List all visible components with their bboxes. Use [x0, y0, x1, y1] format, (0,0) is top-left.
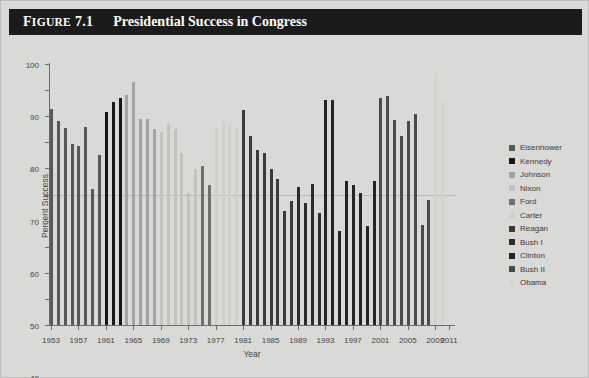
- x-tick-mark: 1969: [161, 326, 162, 330]
- bar: [276, 179, 279, 325]
- bar: [441, 101, 444, 325]
- bar: [434, 73, 437, 325]
- x-tick-label: 2001: [371, 336, 389, 345]
- x-tick-mark: 1989: [298, 326, 299, 330]
- bar: [57, 121, 60, 325]
- y-tick-label: 100: [26, 61, 39, 70]
- x-tick-mark: 1965: [133, 326, 134, 330]
- legend-swatch-icon: [509, 145, 515, 151]
- y-tick-label: 90: [30, 113, 39, 122]
- bar: [263, 153, 266, 325]
- figure-container: FIGURE 7.1 Presidential Success in Congr…: [0, 0, 589, 378]
- legend-item-nixon[interactable]: Nixon: [509, 182, 587, 196]
- bar: [201, 166, 204, 325]
- y-tick-mark: 80: [45, 116, 49, 117]
- bar: [98, 155, 101, 325]
- figure-header-bar: FIGURE 7.1 Presidential Success in Congr…: [9, 9, 582, 35]
- x-tick-label: 1965: [124, 336, 142, 345]
- bar: [77, 146, 80, 325]
- x-tick-label: 1961: [97, 336, 115, 345]
- legend-swatch-icon: [509, 199, 515, 205]
- x-tick-label: 1985: [262, 336, 280, 345]
- bar: [283, 211, 286, 325]
- bar: [242, 110, 245, 325]
- x-tick-mark: 1961: [106, 326, 107, 330]
- y-tick-mark: 0: [45, 325, 49, 326]
- x-tick-label: 1977: [207, 336, 225, 345]
- x-axis-line: [49, 325, 455, 326]
- y-tick-mark: 100: [45, 64, 49, 65]
- legend-item-carter[interactable]: Carter: [509, 209, 587, 223]
- legend-label: Bush II: [520, 265, 545, 274]
- x-tick-mark: 1957: [78, 326, 79, 330]
- legend-swatch-icon: [509, 158, 515, 164]
- legend-label: Johnson: [520, 170, 550, 179]
- bar: [167, 124, 170, 325]
- legend-label: Eisenhower: [520, 143, 562, 152]
- legend-label: Obama: [520, 278, 546, 287]
- bar: [105, 112, 108, 325]
- x-tick-label: 1981: [234, 336, 252, 345]
- legend-label: Clinton: [520, 251, 545, 260]
- bar: [379, 98, 382, 325]
- bar: [345, 181, 348, 325]
- y-tick-mark: 40: [45, 221, 49, 222]
- legend-swatch-icon: [509, 172, 515, 178]
- y-tick-label: 50: [30, 322, 39, 331]
- bar: [270, 169, 273, 325]
- bar: [256, 150, 259, 325]
- bar: [331, 100, 334, 326]
- bar: [119, 98, 122, 325]
- y-tick-mark: 50: [45, 195, 49, 196]
- bar: [297, 187, 300, 325]
- chart-plot-area: 0102030405060708090100 19531957196119651…: [49, 63, 455, 326]
- bar: [324, 100, 327, 326]
- bar: [215, 128, 218, 325]
- y-tick-label: 70: [30, 217, 39, 226]
- figure-title: Presidential Success in Congress: [113, 14, 307, 30]
- bar: [194, 169, 197, 325]
- y-tick-label: 40: [30, 374, 39, 378]
- bar: [160, 132, 163, 325]
- y-tick-label: 60: [30, 269, 39, 278]
- y-tick-mark: 90: [45, 90, 49, 91]
- bar: [50, 109, 53, 325]
- x-tick-label: 1993: [317, 336, 335, 345]
- x-tick-label: 1989: [289, 336, 307, 345]
- legend-swatch-icon: [509, 239, 515, 245]
- x-tick-mark: 2011: [449, 326, 450, 330]
- x-tick-label: 2011: [440, 336, 457, 345]
- bar: [414, 114, 417, 325]
- y-tick-mark: 60: [45, 168, 49, 169]
- bar: [139, 119, 142, 325]
- x-tick-mark: 1993: [325, 326, 326, 330]
- x-tick-mark: 1997: [353, 326, 354, 330]
- legend-item-eisenhower[interactable]: Eisenhower: [509, 141, 587, 155]
- legend-item-obama[interactable]: Obama: [509, 276, 587, 290]
- x-tick-mark: 2005: [408, 326, 409, 330]
- bar: [352, 185, 355, 325]
- bar: [71, 144, 74, 325]
- legend-item-johnson[interactable]: Johnson: [509, 168, 587, 182]
- chart-legend: EisenhowerKennedyJohnsonNixonFordCarterR…: [509, 141, 587, 290]
- x-tick-label: 1973: [179, 336, 197, 345]
- bar: [366, 226, 369, 325]
- x-axis-title: Year: [49, 349, 455, 359]
- legend-swatch-icon: [509, 280, 515, 286]
- legend-item-kennedy[interactable]: Kennedy: [509, 155, 587, 169]
- legend-item-clinton[interactable]: Clinton: [509, 249, 587, 263]
- legend-item-bush-ii[interactable]: Bush II: [509, 263, 587, 277]
- y-tick-mark: 30: [45, 247, 49, 248]
- x-tick-mark: 2009: [435, 326, 436, 330]
- bar: [304, 203, 307, 325]
- x-tick-mark: 1981: [243, 326, 244, 330]
- legend-item-bush-i[interactable]: Bush I: [509, 236, 587, 250]
- bar: [421, 225, 424, 325]
- bar: [407, 121, 410, 325]
- x-tick-mark: 1985: [271, 326, 272, 330]
- x-tick-label: 2005: [399, 336, 417, 345]
- y-tick-mark: 10: [45, 299, 49, 300]
- legend-label: Bush I: [520, 238, 543, 247]
- legend-item-ford[interactable]: Ford: [509, 195, 587, 209]
- legend-item-reagan[interactable]: Reagan: [509, 222, 587, 236]
